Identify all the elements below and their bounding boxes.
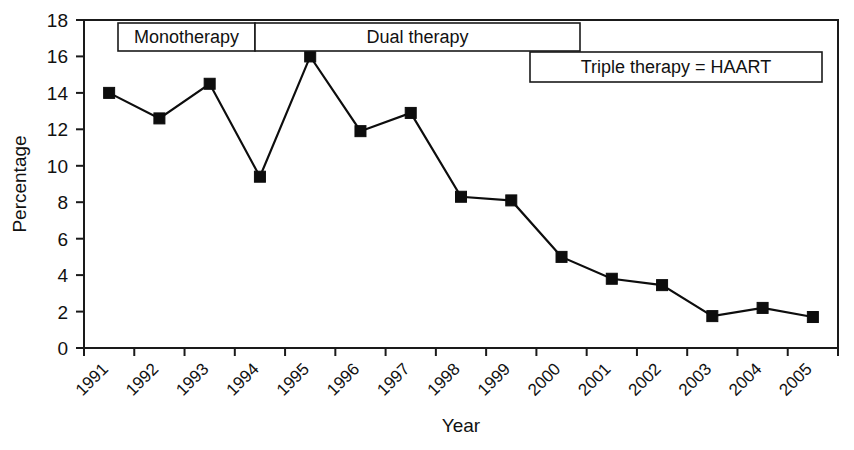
- x-axis-tick-labels: 1991199219931994199519961997199819992000…: [72, 359, 816, 399]
- x-tick-label-1993: 1993: [172, 359, 212, 399]
- data-point-1993: [204, 78, 215, 89]
- monotherapy-label: Monotherapy: [134, 27, 239, 47]
- data-series-markers: [104, 51, 819, 323]
- x-tick-label-1995: 1995: [273, 359, 313, 399]
- annotation-dual-therapy: Dual therapy: [255, 23, 580, 51]
- data-point-2002: [657, 280, 668, 291]
- y-tick-label-6: 6: [57, 229, 68, 250]
- y-tick-label-4: 4: [57, 265, 68, 286]
- y-tick-label-0: 0: [57, 338, 68, 359]
- y-tick-label-14: 14: [47, 83, 69, 104]
- x-tick-label-2005: 2005: [776, 359, 816, 399]
- y-tick-label-8: 8: [57, 192, 68, 213]
- data-point-1992: [154, 113, 165, 124]
- triple-therapy-label: Triple therapy = HAART: [581, 57, 772, 77]
- x-tick-label-2002: 2002: [625, 359, 665, 399]
- data-point-2003: [707, 311, 718, 322]
- x-tick-label-2003: 2003: [675, 359, 715, 399]
- y-tick-label-18: 18: [47, 10, 68, 31]
- y-axis-ticks: [76, 20, 84, 348]
- annotation-monotherapy: Monotherapy: [118, 23, 255, 51]
- x-tick-label-1992: 1992: [122, 359, 162, 399]
- data-point-2005: [807, 312, 818, 323]
- y-tick-label-16: 16: [47, 46, 68, 67]
- x-tick-label-1994: 1994: [223, 359, 263, 399]
- data-series-line: [109, 56, 813, 317]
- line-chart-svg: 0 2 4 6 8 10 12 14 16 18 Percentage 1991…: [0, 0, 854, 450]
- chart-figure: 0 2 4 6 8 10 12 14 16 18 Percentage 1991…: [0, 0, 854, 450]
- data-point-1997: [405, 107, 416, 118]
- x-tick-label-1999: 1999: [474, 359, 514, 399]
- y-tick-label-2: 2: [57, 302, 68, 323]
- data-point-1995: [305, 51, 316, 62]
- y-axis-tick-labels: 0 2 4 6 8 10 12 14 16 18: [47, 10, 69, 359]
- x-tick-label-1991: 1991: [72, 359, 112, 399]
- data-point-2000: [556, 251, 567, 262]
- data-point-1999: [506, 195, 517, 206]
- x-tick-label-2000: 2000: [524, 359, 564, 399]
- x-tick-label-2004: 2004: [725, 359, 765, 399]
- dual-therapy-label: Dual therapy: [366, 27, 468, 47]
- x-tick-label-2001: 2001: [574, 359, 614, 399]
- x-axis-title: Year: [442, 415, 481, 436]
- x-tick-label-1997: 1997: [373, 359, 413, 399]
- data-point-2004: [757, 302, 768, 313]
- data-point-1996: [355, 126, 366, 137]
- data-point-2001: [606, 273, 617, 284]
- data-point-1991: [104, 87, 115, 98]
- data-point-1994: [254, 171, 265, 182]
- x-tick-label-1998: 1998: [424, 359, 464, 399]
- y-tick-label-10: 10: [47, 156, 68, 177]
- x-axis-ticks: [84, 348, 838, 356]
- y-tick-label-12: 12: [47, 119, 68, 140]
- data-point-1998: [456, 191, 467, 202]
- y-axis-title: Percentage: [9, 135, 30, 232]
- annotation-triple-therapy: Triple therapy = HAART: [530, 52, 822, 82]
- x-tick-label-1996: 1996: [323, 359, 363, 399]
